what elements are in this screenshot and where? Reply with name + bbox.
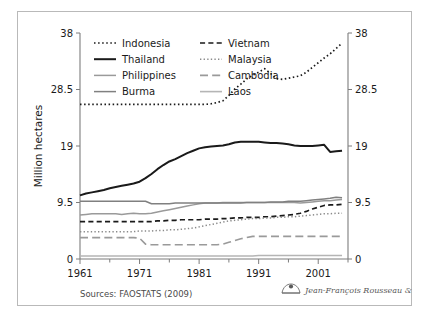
y-tick-label-left: 38 (60, 28, 73, 39)
legend-label-cambodia: Cambodia (228, 70, 279, 81)
x-tick-label: 1961 (67, 268, 92, 279)
y-tick-label-right: 28.5 (355, 84, 377, 95)
series-line-thailand (80, 142, 342, 196)
y-tick-label-right: 19 (355, 141, 368, 152)
legend-label-laos: Laos (228, 86, 251, 97)
x-tick-label: 1971 (127, 268, 152, 279)
series-layer (80, 43, 342, 256)
series-line-malaysia (80, 213, 342, 231)
series-line-vietnam (80, 204, 342, 221)
chart-figure: 09.51928.53809.51928.5381961197119811991… (17, 11, 412, 306)
legend-label-burma: Burma (122, 86, 155, 97)
legend-label-thailand: Thailand (121, 54, 165, 65)
line-chart-svg: 09.51928.53809.51928.5381961197119811991… (18, 12, 413, 307)
y-tick-label-left: 0 (67, 254, 73, 265)
x-tick-label: 1981 (186, 268, 211, 279)
logo-dot (289, 284, 293, 288)
y-tick-label-right: 0 (355, 254, 361, 265)
y-tick-label-right: 9.5 (355, 197, 371, 208)
cropped-caption-above-frame (0, 0, 431, 10)
pen-nib-logo-icon (282, 284, 300, 293)
source-note: Sources: FAOSTATS (2009) (80, 289, 192, 299)
x-tick-label: 2001 (305, 268, 330, 279)
axes-layer: 09.51928.53809.51928.5381961197119811991… (32, 28, 377, 279)
legend-label-malaysia: Malaysia (228, 54, 272, 65)
y-tick-label-left: 28.5 (51, 84, 73, 95)
legend-layer: IndonesiaThailandPhilippinesBurmaVietnam… (94, 38, 279, 98)
y-axis-label: Million hectares (32, 105, 44, 188)
y-tick-label-left: 19 (60, 141, 73, 152)
series-line-indonesia (80, 43, 342, 104)
legend-label-vietnam: Vietnam (228, 38, 270, 49)
footer-layer: Sources: FAOSTATS (2009)Jean-François Ro… (80, 284, 413, 299)
x-tick-label: 1991 (246, 268, 271, 279)
y-tick-label-right: 38 (355, 28, 368, 39)
series-line-laos (80, 255, 342, 256)
y-tick-label-left: 9.5 (57, 197, 73, 208)
series-line-cambodia (80, 236, 342, 244)
legend-label-philippines: Philippines (122, 70, 176, 81)
credit-text: Jean-François Rousseau & Marc Girard (303, 286, 413, 295)
legend-label-indonesia: Indonesia (122, 38, 170, 49)
plot-area-wrapper: 09.51928.53809.51928.5381961197119811991… (18, 12, 413, 307)
